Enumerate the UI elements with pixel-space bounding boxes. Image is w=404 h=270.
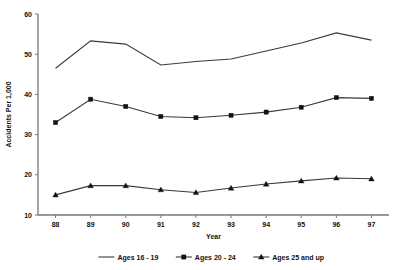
x-axis-tick-label: 96 bbox=[332, 221, 340, 228]
chart-legend: Ages 16 - 19Ages 20 - 24Ages 25 and up bbox=[98, 254, 324, 262]
x-axis-tick-label: 89 bbox=[87, 221, 95, 228]
data-point-marker bbox=[182, 255, 186, 259]
legend-label: Ages 25 and up bbox=[272, 254, 324, 262]
data-point-marker bbox=[124, 104, 128, 108]
y-axis-tick-label: 30 bbox=[24, 131, 32, 138]
x-axis-tick-label: 97 bbox=[368, 221, 376, 228]
y-axis-tick-label: 50 bbox=[24, 51, 32, 58]
x-axis-title: Year bbox=[206, 233, 221, 240]
data-point-marker bbox=[89, 97, 93, 101]
data-point-marker bbox=[334, 96, 338, 100]
x-axis-tick-label: 88 bbox=[52, 221, 60, 228]
chart-canvas: 102030405060 88899091929394959697 YearAc… bbox=[0, 0, 404, 270]
x-axis-tick-label: 91 bbox=[157, 221, 165, 228]
data-point-marker bbox=[369, 96, 373, 100]
data-point-marker bbox=[299, 105, 303, 109]
legend-label: Ages 16 - 19 bbox=[117, 254, 158, 262]
x-axis-tick-label: 90 bbox=[122, 221, 130, 228]
y-axis-tick-label: 60 bbox=[24, 11, 32, 18]
chart-background bbox=[0, 0, 404, 270]
y-axis-tick-label: 10 bbox=[24, 212, 32, 219]
data-point-marker bbox=[194, 116, 198, 120]
accidents-per-1000-line-chart: 102030405060 88899091929394959697 YearAc… bbox=[0, 0, 404, 270]
x-axis-tick-label: 94 bbox=[262, 221, 270, 228]
x-axis-tick-label: 93 bbox=[227, 221, 235, 228]
x-axis-tick-label: 92 bbox=[192, 221, 200, 228]
data-point-marker bbox=[159, 114, 163, 118]
data-point-marker bbox=[264, 110, 268, 114]
data-point-marker bbox=[229, 113, 233, 117]
y-axis-title: Accidents Per 1,000 bbox=[5, 81, 13, 147]
legend-label: Ages 20 - 24 bbox=[195, 254, 236, 262]
data-point-marker bbox=[53, 120, 57, 124]
y-axis-tick-label: 20 bbox=[24, 171, 32, 178]
y-axis-tick-label: 40 bbox=[24, 91, 32, 98]
x-axis-tick-label: 95 bbox=[297, 221, 305, 228]
